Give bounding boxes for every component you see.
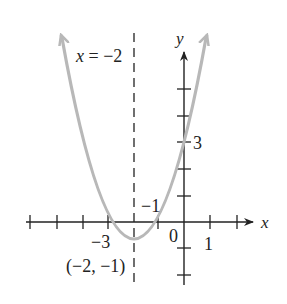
- axis-of-symmetry-label: x = −2: [75, 46, 122, 66]
- y-axis-label: y: [174, 29, 184, 48]
- origin-label: 0: [169, 226, 178, 246]
- vertex-label: (−2, −1): [66, 256, 125, 277]
- x-intercept-left-label: −3: [91, 232, 110, 252]
- y-intercept-label: 3: [193, 133, 202, 153]
- parabola-graph: x = −2 y x 3 −1 −3 0 1 (−2, −1): [0, 0, 287, 304]
- x-intercept-right-label: −1: [141, 196, 160, 216]
- x-axis: [26, 215, 253, 229]
- y-axis: [177, 52, 191, 285]
- x-axis-label: x: [260, 213, 269, 232]
- x-one-label: 1: [204, 234, 213, 254]
